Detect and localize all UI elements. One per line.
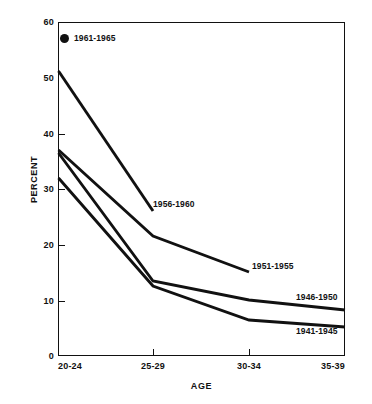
x-tick-label-25-29: 25-29: [141, 362, 165, 371]
y-tick-label-40: 40: [14, 130, 54, 139]
legend-label-1961-1965: 1961-1965: [74, 34, 116, 43]
y-tick-label-10: 10: [14, 297, 54, 306]
y-tick-label-50: 50: [14, 74, 54, 83]
y-tick-label-30: 30: [14, 185, 54, 194]
chart-figure: PERCENT 60 50 40 30 20 10 0 20-24 25-29 …: [0, 0, 372, 404]
y-tick-label-60: 60: [14, 18, 54, 27]
x-axis-title: AGE: [58, 382, 345, 391]
series-label-1951-1955: 1951-1955: [252, 262, 294, 271]
x-tick-label-30-34: 30-34: [237, 362, 261, 371]
x-tick-label-35-39: 35-39: [321, 362, 345, 371]
series-label-1956-1960: 1956-1960: [153, 200, 195, 209]
y-axis-title: PERCENT: [30, 140, 39, 220]
y-tick-label-0: 0: [14, 352, 54, 361]
plot-area-frame: [58, 22, 345, 356]
legend: 1961-1965: [60, 34, 116, 43]
y-tick-label-20: 20: [14, 241, 54, 250]
x-tick-mark-25-29: [153, 349, 154, 356]
x-tick-label-20-24: 20-24: [58, 362, 82, 371]
series-label-1946-1950: 1946-1950: [296, 293, 338, 302]
x-tick-mark-30-34: [249, 349, 250, 356]
filled-circle-icon: [60, 34, 69, 43]
series-label-1941-1945: 1941-1945: [296, 327, 338, 336]
